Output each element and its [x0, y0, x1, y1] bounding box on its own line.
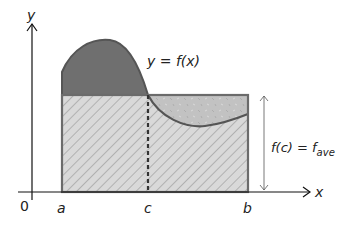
- curve-label: y = f(x): [146, 53, 200, 69]
- tick-label-b: b: [243, 200, 252, 216]
- mean-value-diagram: y x 0 a c b y = f(x) f(c) = fave: [0, 0, 339, 227]
- height-label-main: f(c) = f: [271, 140, 319, 155]
- tick-label-c: c: [144, 200, 152, 216]
- area-above-average: [62, 40, 148, 95]
- y-axis-label: y: [26, 7, 36, 23]
- x-axis-label: x: [314, 184, 324, 200]
- origin-label: 0: [20, 198, 29, 214]
- tick-label-a: a: [57, 200, 66, 216]
- height-label: f(c) = fave: [271, 140, 335, 158]
- height-label-subscript: ave: [317, 147, 335, 158]
